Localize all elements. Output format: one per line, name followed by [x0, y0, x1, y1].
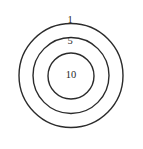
target-diagram: 1 5 10 [0, 0, 143, 149]
middle-ring-label: 5 [67, 35, 72, 46]
concentric-circles-figure: 1 5 10 [0, 0, 143, 149]
outer-ring-label: 1 [67, 14, 72, 25]
inner-ring-label: 10 [66, 69, 77, 80]
